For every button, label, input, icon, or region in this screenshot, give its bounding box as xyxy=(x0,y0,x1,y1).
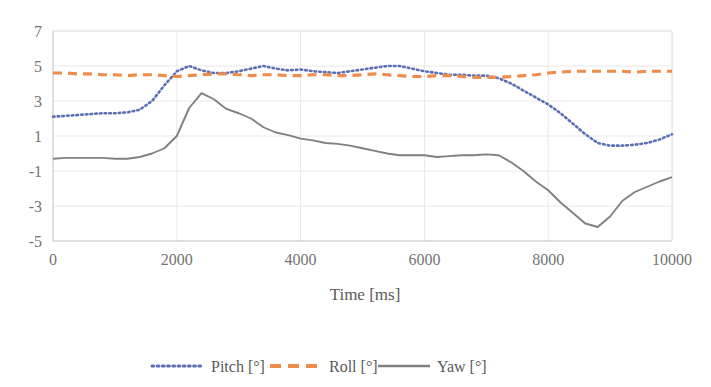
y-axis-tick-labels: 7531-1-3-5 xyxy=(29,23,42,250)
y-tick-label: 1 xyxy=(34,128,42,145)
x-tick-label: 10000 xyxy=(652,251,692,268)
y-tick-label: 3 xyxy=(34,93,42,110)
x-axis-title: Time [ms] xyxy=(330,285,401,304)
y-tick-label: 7 xyxy=(34,23,42,40)
legend-label: Roll [°] xyxy=(329,358,378,375)
line-chart: 7531-1-3-5 0200040006000800010000 Time [… xyxy=(0,0,711,387)
legend-label: Pitch [°] xyxy=(211,358,265,375)
x-tick-label: 6000 xyxy=(408,251,440,268)
gridlines xyxy=(53,31,672,241)
x-tick-label: 0 xyxy=(49,251,57,268)
series-line-roll xyxy=(53,71,672,77)
y-tick-label: -3 xyxy=(29,198,42,215)
series-line-pitch xyxy=(53,66,672,146)
x-tick-label: 2000 xyxy=(161,251,193,268)
chart-legend: Pitch [°]Roll [°]Yaw [°] xyxy=(152,358,487,375)
x-tick-label: 8000 xyxy=(532,251,564,268)
y-tick-label: -1 xyxy=(29,163,42,180)
series-line-yaw xyxy=(53,93,672,227)
y-tick-label: 5 xyxy=(34,58,42,75)
x-tick-label: 4000 xyxy=(285,251,317,268)
x-axis-tick-labels: 0200040006000800010000 xyxy=(49,251,692,268)
chart-container: 7531-1-3-5 0200040006000800010000 Time [… xyxy=(0,0,711,387)
y-tick-label: -5 xyxy=(29,233,42,250)
data-series-group xyxy=(53,66,672,227)
legend-label: Yaw [°] xyxy=(437,358,487,375)
